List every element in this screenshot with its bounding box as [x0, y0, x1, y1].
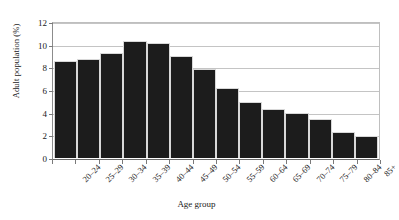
figure-title	[0, 0, 393, 2]
bar-slot	[100, 23, 123, 158]
y-axis-tick-label: 4	[43, 109, 48, 119]
x-axis-tick-label: 80–84	[361, 162, 383, 184]
bar-slot	[54, 23, 77, 158]
bar[interactable]	[262, 109, 285, 159]
bar-slot	[332, 23, 355, 158]
x-axis-tick-label: 35–39	[150, 162, 172, 184]
bar-slot	[309, 23, 332, 158]
x-axis-tick-label: 30–34	[127, 162, 149, 184]
y-axis-tick	[49, 114, 53, 115]
x-axis-title: Age group	[0, 199, 393, 209]
bar-slot	[262, 23, 285, 158]
plot-area: 024681012	[52, 22, 380, 160]
y-axis-tick	[49, 23, 53, 24]
bar-series	[54, 23, 378, 158]
bar-slot	[123, 23, 146, 158]
x-axis-tick-label: 40–44	[173, 162, 195, 184]
y-axis-tick-label: 12	[38, 18, 47, 28]
bar-slot	[147, 23, 170, 158]
bar[interactable]	[123, 41, 146, 158]
bar-slot	[77, 23, 100, 158]
x-axis-tick	[380, 160, 381, 164]
bar-slot	[285, 23, 308, 158]
bar[interactable]	[54, 61, 77, 158]
y-axis-tick	[49, 91, 53, 92]
bar[interactable]	[355, 136, 378, 159]
bar[interactable]	[170, 56, 193, 158]
bar[interactable]	[147, 43, 170, 158]
y-axis-tick-label: 0	[43, 154, 48, 164]
y-axis-title: Adult population (%)	[11, 1, 21, 121]
y-axis-tick	[49, 68, 53, 69]
bar[interactable]	[309, 119, 332, 158]
bar-slot	[239, 23, 262, 158]
x-axis-tick-label: 70–74	[314, 162, 336, 184]
x-axis-tick-label: 45–49	[197, 162, 219, 184]
bar[interactable]	[100, 53, 123, 158]
bar[interactable]	[193, 69, 216, 158]
bar-slot	[355, 23, 378, 158]
bar[interactable]	[216, 88, 239, 158]
y-axis-tick-label: 8	[43, 63, 48, 73]
bar-slot	[193, 23, 216, 158]
x-axis-tick-label: 75–79	[337, 162, 359, 184]
bar[interactable]	[332, 132, 355, 158]
y-axis-tick-label: 10	[38, 41, 47, 51]
bar[interactable]	[239, 102, 262, 158]
bar[interactable]	[77, 59, 100, 158]
y-axis-tick-label: 2	[43, 131, 48, 141]
x-axis-tick-label: 55–59	[244, 162, 266, 184]
bar-slot	[216, 23, 239, 158]
x-axis-tick-label: 25–29	[103, 162, 125, 184]
x-axis-tick-label: 65–69	[291, 162, 313, 184]
x-axis-tick-label: 85+	[382, 162, 398, 178]
bar[interactable]	[285, 113, 308, 158]
y-axis-tick	[49, 136, 53, 137]
x-axis-tick-labels: 20–2425–2930–3435–3940–4445–4950–5455–59…	[52, 162, 380, 200]
x-axis-tick-label: 60–64	[267, 162, 289, 184]
bar-slot	[170, 23, 193, 158]
x-axis-tick-label: 50–54	[220, 162, 242, 184]
x-axis-tick-label: 20–24	[80, 162, 102, 184]
y-axis-tick-label: 6	[43, 86, 48, 96]
y-axis-tick	[49, 46, 53, 47]
